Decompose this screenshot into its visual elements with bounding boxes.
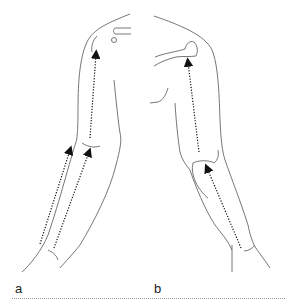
panel-a-arrows — [40, 54, 96, 248]
arrow-upper-arm-a — [90, 54, 96, 138]
caption-divider — [12, 298, 285, 299]
arrow-upper-arm-b — [188, 62, 199, 152]
panel-b-arrows — [188, 62, 241, 248]
panel-b-arm-outline — [150, 16, 270, 272]
panel-label-a: a — [15, 281, 22, 296]
arm-illustration — [0, 0, 289, 307]
panel-label-b: b — [154, 281, 161, 296]
figure-caption — [12, 302, 287, 307]
panel-a-arm-outline — [22, 14, 131, 272]
arrow-forearm-outer-a — [40, 150, 70, 244]
